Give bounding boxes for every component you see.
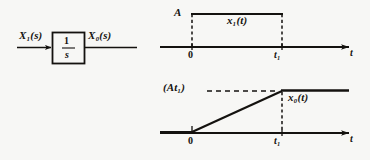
waveform-label-input: x₁(t) [227, 15, 247, 26]
amplitude-label-bottom: (At₁) [163, 82, 185, 93]
input-signal-label: X₁(s) [19, 30, 42, 41]
output-signal-label: X₀(s) [88, 30, 111, 41]
waveform-label-output: x₀(t) [288, 92, 308, 103]
amplitude-label-top: A [174, 7, 181, 18]
chart-input-waveform [160, 14, 349, 50]
xaxis-label-top: t [350, 48, 353, 58]
transfer-function-numerator: 1 [64, 36, 69, 46]
chart-output-waveform [160, 91, 349, 137]
xaxis-label-bottom: t [350, 134, 353, 144]
xtick-t1-bottom: t₁ [274, 136, 280, 146]
xtick-zero-top: 0 [188, 50, 193, 60]
figure-canvas: X₁(s) X₀(s) 1 s A x₁(t) 0 t₁ t (At₁) x₀(… [0, 0, 370, 160]
ramp-segment [192, 91, 282, 132]
transfer-function-denominator: s [65, 50, 69, 60]
figure-vector-layer [0, 0, 370, 160]
xtick-zero-bottom: 0 [188, 136, 193, 146]
xtick-t1-top: t₁ [274, 50, 280, 60]
